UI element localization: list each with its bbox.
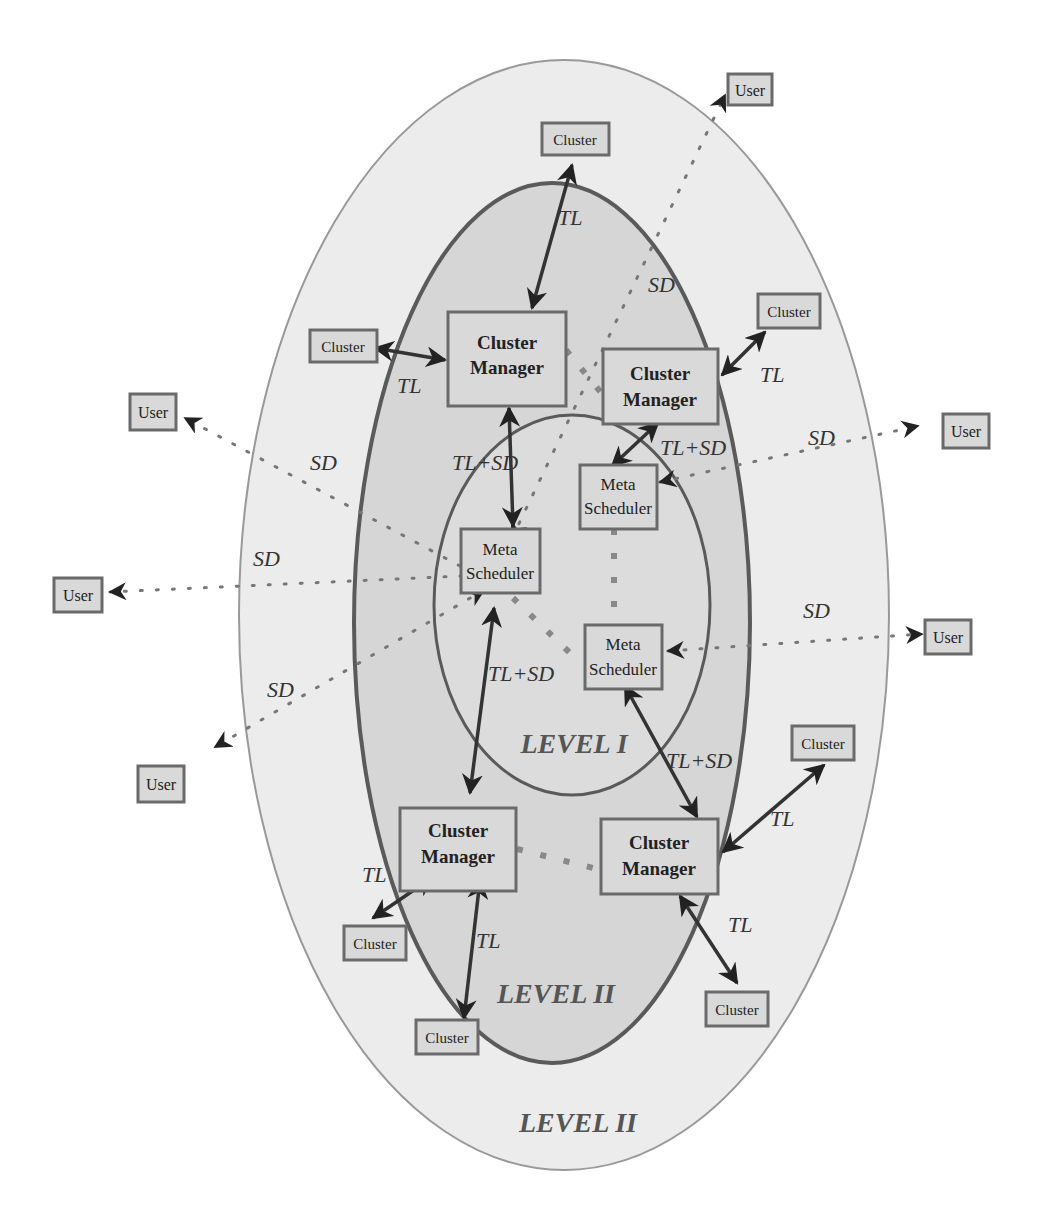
cluster-node[interactable]: Cluster [542,123,609,155]
svg-text:Cluster: Cluster [477,332,538,353]
svg-text:User: User [933,629,964,646]
level-1-label: LEVEL I [519,728,628,759]
tlsd-label: TL+SD [452,450,518,475]
svg-text:Cluster: Cluster [630,363,691,384]
cluster-node[interactable]: Cluster [706,992,768,1026]
sd-label: SD [253,546,280,571]
cluster-node[interactable]: Cluster [416,1020,478,1054]
tl-label: TL [397,373,421,398]
tlsd-label: TL+SD [660,435,726,460]
cluster-manager-node[interactable]: Cluster Manager [448,312,566,406]
tl-label: TL [362,862,386,887]
svg-text:Meta: Meta [483,540,518,559]
user-node[interactable]: User [54,578,102,612]
tlsd-label: TL+SD [666,748,732,773]
cluster-node[interactable]: Cluster [758,294,820,328]
tl-label: TL [558,205,582,230]
user-node[interactable]: User [943,414,989,448]
svg-text:Cluster: Cluster [767,304,810,320]
svg-text:Scheduler: Scheduler [589,660,657,679]
user-node[interactable]: User [138,766,184,802]
svg-text:Cluster: Cluster [425,1030,468,1046]
level-2-outer-label: LEVEL II [518,1107,638,1138]
cluster-node[interactable]: Cluster [344,926,406,960]
meta-scheduler-node[interactable]: Meta Scheduler [580,465,657,529]
tl-label: TL [760,362,784,387]
svg-text:Meta: Meta [606,635,641,654]
cluster-manager-node[interactable]: Cluster Manager [400,808,516,891]
cluster-manager-node[interactable]: Cluster Manager [603,349,718,424]
sd-label: SD [310,450,337,475]
svg-text:Cluster: Cluster [553,132,596,148]
sd-label: SD [648,272,675,297]
svg-text:Manager: Manager [622,858,696,879]
user-node[interactable]: User [130,394,176,430]
sd-label: SD [808,425,835,450]
svg-text:User: User [146,776,177,793]
svg-text:Meta: Meta [601,475,636,494]
cluster-node[interactable]: Cluster [310,330,377,362]
svg-text:Cluster: Cluster [801,736,844,752]
svg-text:Scheduler: Scheduler [466,564,534,583]
sd-label: SD [803,598,830,623]
svg-text:Scheduler: Scheduler [584,499,652,518]
svg-text:User: User [138,404,169,421]
meta-scheduler-node[interactable]: Meta Scheduler [461,529,540,593]
tl-label: TL [476,928,500,953]
svg-text:Cluster: Cluster [353,936,396,952]
svg-text:Manager: Manager [470,357,544,378]
svg-text:Cluster: Cluster [715,1002,758,1018]
level-2-inner-label: LEVEL II [496,978,616,1009]
sd-label: SD [267,677,294,702]
svg-text:Cluster: Cluster [321,339,364,355]
svg-text:Manager: Manager [623,389,697,410]
grid-hierarchy-diagram: TL SD TL TL SD TL+SD TL+SD SD SD SD TL+S… [0,0,1046,1210]
user-node[interactable]: User [925,620,971,654]
meta-scheduler-node[interactable]: Meta Scheduler [585,625,662,689]
svg-text:Manager: Manager [421,846,495,867]
svg-text:User: User [735,82,766,99]
cluster-manager-node[interactable]: Cluster Manager [601,819,718,894]
svg-text:Cluster: Cluster [629,832,690,853]
cluster-node[interactable]: Cluster [792,726,854,760]
tl-label: TL [728,912,752,937]
svg-text:User: User [951,423,982,440]
svg-text:User: User [63,587,94,604]
user-node[interactable]: User [728,74,772,105]
svg-text:Cluster: Cluster [428,820,489,841]
tlsd-label: TL+SD [488,661,554,686]
tl-label: TL [770,806,794,831]
